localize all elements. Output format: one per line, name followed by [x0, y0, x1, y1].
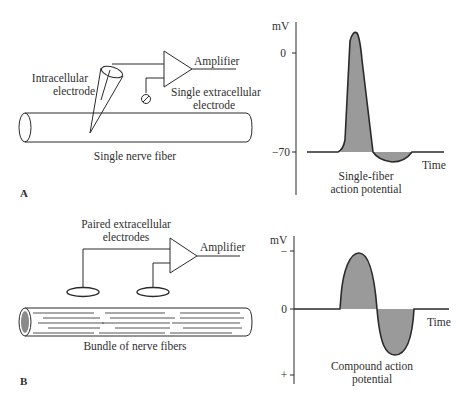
tick-label-plus-b: +: [281, 369, 288, 381]
label-single-extracellular: Single extracellular: [171, 86, 261, 99]
label-extracellular-electrode: electrode: [193, 99, 235, 111]
tick-label-minus70: −70: [272, 146, 290, 158]
caption-a-2: action potential: [330, 183, 401, 196]
trace-a: [307, 32, 444, 162]
figure-canvas: Intracellular electrode Amplifier Single…: [0, 0, 468, 403]
caption-b-2: potential: [352, 373, 392, 386]
tick-label-0-b: 0: [281, 303, 287, 315]
caption-a-1: Single-fiber: [339, 170, 394, 183]
y-unit-a: mV: [272, 20, 290, 32]
label-intracellular: Intracellular: [32, 72, 88, 84]
tick-label-0-a: 0: [280, 47, 286, 59]
panel-b-letter: B: [20, 375, 28, 387]
label-amplifier-b: Amplifier: [200, 241, 246, 254]
caption-b-1: Compound action: [331, 360, 413, 373]
label-intracellular-electrode: electrode: [53, 85, 95, 97]
paired-electrode-2-icon: [137, 288, 169, 297]
amplifier-icon: [164, 51, 192, 87]
electrode-wire-1: [83, 249, 170, 288]
label-single-nerve-fiber: Single nerve fiber: [94, 150, 177, 163]
tick-label-minus-b: −: [281, 245, 288, 257]
panel-a-letter: A: [20, 187, 28, 199]
single-extracellular-electrode-icon: [142, 95, 151, 104]
ground-wire: [146, 78, 164, 93]
intracellular-electrode-icon: [90, 64, 124, 133]
label-paired-electrodes: electrodes: [103, 231, 150, 243]
x-label-b: Time: [427, 316, 451, 328]
label-bundle-of-nerve-fibers: Bundle of nerve fibers: [83, 340, 187, 352]
amplifier-icon-b: [170, 238, 197, 273]
x-label-a: Time: [422, 159, 446, 171]
label-amplifier-a: Amplifier: [194, 55, 240, 68]
single-nerve-fiber-icon: [19, 113, 252, 142]
label-paired-extracellular: Paired extracellular: [81, 218, 171, 230]
nerve-bundle-icon: [19, 308, 252, 336]
paired-electrode-1-icon: [67, 288, 99, 297]
electrode-wire-2: [153, 263, 170, 288]
